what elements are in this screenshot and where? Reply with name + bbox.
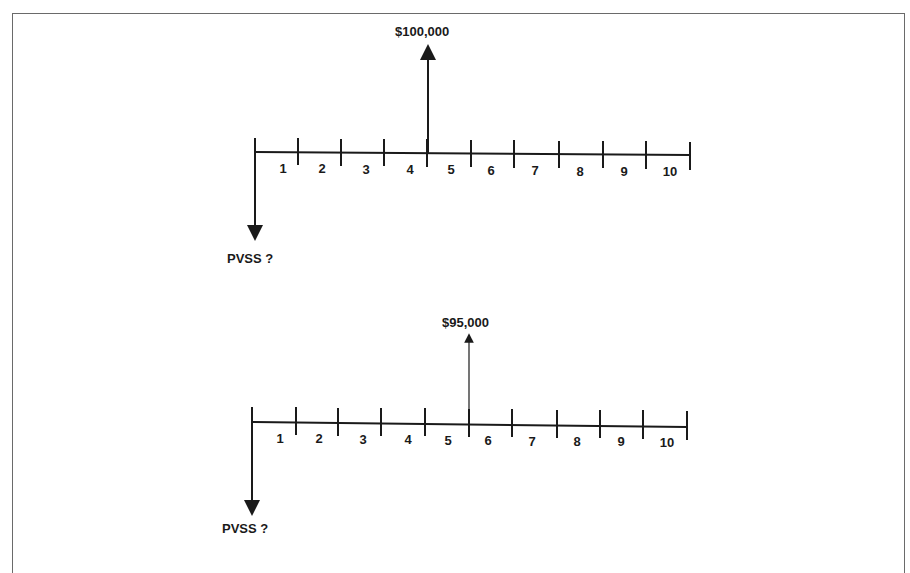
- period-label: 2: [315, 431, 322, 446]
- period-label: 5: [444, 433, 451, 448]
- period-label: 3: [359, 432, 366, 447]
- period-label: 3: [362, 162, 369, 177]
- period-label: 8: [576, 164, 583, 179]
- period-label: 9: [620, 164, 627, 179]
- period-label: 8: [573, 434, 580, 449]
- period-label: 9: [617, 434, 624, 449]
- period-label: 6: [484, 433, 491, 448]
- period-label: 1: [279, 161, 286, 176]
- period-label: 4: [406, 162, 413, 177]
- period-label: 2: [318, 161, 325, 176]
- period-label: 10: [660, 435, 674, 450]
- period-label: 4: [404, 432, 411, 447]
- present-value-label-1: PVSS ?: [227, 251, 273, 266]
- period-label: 7: [531, 163, 538, 178]
- period-label: 1: [276, 431, 283, 446]
- period-label: 6: [487, 163, 494, 178]
- period-label: 5: [447, 162, 454, 177]
- cash-flow-label-2: $95,000: [442, 315, 489, 330]
- cash-flow-label-1: $100,000: [395, 24, 449, 39]
- period-label: 7: [528, 434, 535, 449]
- period-label: 10: [663, 164, 677, 179]
- present-value-label-2: PVSS ?: [222, 521, 268, 536]
